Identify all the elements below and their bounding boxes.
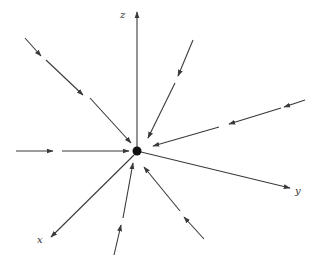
field-line-right-shallow-segment-1 bbox=[284, 100, 305, 107]
field-line-upper-right-steep-segment-2 bbox=[148, 83, 175, 138]
field-line-upper-left-segment-3 bbox=[90, 98, 131, 143]
axis-labels-group: z y x bbox=[37, 9, 301, 245]
y-axis-label: y bbox=[294, 185, 301, 196]
field-line-upper-left-segment-2 bbox=[46, 60, 83, 95]
field-line-bottom-right-segment-1 bbox=[184, 217, 204, 239]
field-line-bottom-center-segment-1 bbox=[114, 225, 121, 255]
field-line-bottom-right-segment-2 bbox=[144, 167, 180, 211]
x-axis bbox=[51, 155, 134, 237]
field-line-right-shallow-segment-2 bbox=[229, 108, 281, 124]
field-diagram: z y x bbox=[0, 0, 315, 269]
point-charge-dot bbox=[133, 147, 142, 156]
x-axis-label: x bbox=[37, 234, 43, 245]
z-axis-label: z bbox=[119, 9, 126, 20]
y-axis bbox=[141, 152, 290, 188]
field-line-upper-right-steep-segment-1 bbox=[178, 40, 193, 76]
field-line-upper-left-segment-1 bbox=[25, 38, 41, 56]
field-line-bottom-center-segment-2 bbox=[123, 163, 133, 218]
axes-group bbox=[51, 12, 290, 237]
field-line-right-shallow-segment-3 bbox=[153, 127, 219, 146]
field-lines-group bbox=[16, 38, 305, 255]
